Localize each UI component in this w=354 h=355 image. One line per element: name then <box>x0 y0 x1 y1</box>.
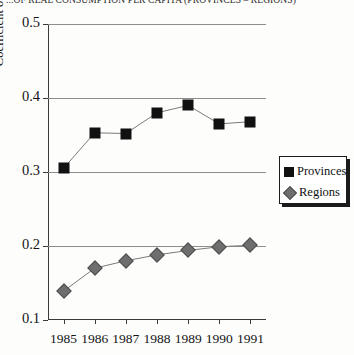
square-marker-icon <box>284 167 294 177</box>
y-axis-tick <box>43 320 48 321</box>
data-point-provinces-1986 <box>89 127 100 138</box>
series-lines <box>48 24 266 320</box>
legend-item-regions[interactable]: Regions <box>284 182 343 203</box>
plot-area <box>48 24 266 320</box>
y-axis-tick-label: 0.3 <box>4 162 40 179</box>
chart-container: ...OF REAL CONSUMPTION PER CAPITA (PROVI… <box>0 0 354 355</box>
legend-item-provinces[interactable]: Provinces <box>284 161 343 182</box>
diamond-marker-icon <box>283 185 297 199</box>
y-axis-tick-label: 0.1 <box>4 310 40 327</box>
data-point-provinces-1989 <box>183 100 194 111</box>
y-axis-tick-label: 0.2 <box>4 236 40 253</box>
data-point-provinces-1987 <box>120 128 131 139</box>
data-point-provinces-1990 <box>214 118 225 129</box>
y-axis-tick-label: 0.4 <box>4 88 40 105</box>
legend-label: Provinces <box>297 164 346 179</box>
chart-legend: Provinces Regions <box>279 156 347 204</box>
data-point-provinces-1985 <box>58 163 69 174</box>
data-point-provinces-1991 <box>245 116 256 127</box>
y-axis-tick-label: 0.5 <box>4 14 40 31</box>
x-axis-tick-label: 1991 <box>227 331 273 347</box>
legend-label: Regions <box>299 185 340 200</box>
data-point-provinces-1988 <box>152 107 163 118</box>
chart-title: ...OF REAL CONSUMPTION PER CAPITA (PROVI… <box>6 0 354 7</box>
